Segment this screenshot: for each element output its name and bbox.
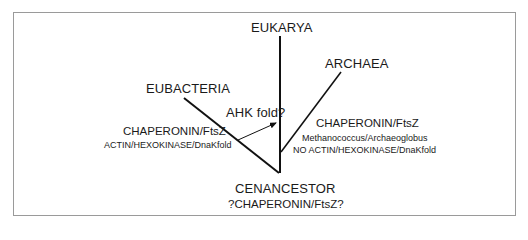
eubacteria-note-actin: ACTIN/HEXOKINASE/DnaKfold <box>104 140 232 150</box>
archaea-note-species: Methanococcus/Archaeoglobus <box>302 133 428 143</box>
eubacteria-note-chaperonin: CHAPERONIN/FtsZ <box>123 125 226 137</box>
cenancestor-note: ?CHAPERONIN/FtsZ? <box>228 198 344 210</box>
ahk-transfer-arrow <box>238 123 276 140</box>
cenancestor-label: CENANCESTOR <box>235 181 336 196</box>
archaea-note-no-actin: NO ACTIN/HEXOKINASE/DnaKfold <box>293 145 436 155</box>
archaea-note-chaperonin: CHAPERONIN/FtsZ <box>316 117 419 129</box>
eubacteria-label: EUBACTERIA <box>146 81 230 96</box>
ahk-fold-label: AHK fold? <box>226 105 285 120</box>
archaea-label: ARCHAEA <box>325 56 389 71</box>
eukarya-label: EUKARYA <box>251 20 313 35</box>
